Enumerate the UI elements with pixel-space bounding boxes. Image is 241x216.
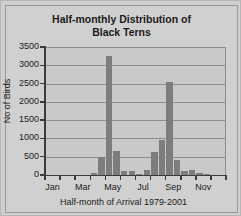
x-axis-tick bbox=[150, 176, 152, 180]
chart-title-line-1: Half-monthly Distribution of bbox=[29, 13, 214, 26]
x-axis-tick-label: Sep bbox=[156, 182, 190, 192]
x-axis-tick bbox=[195, 176, 197, 180]
image-frame: Half-monthly Distribution of Black Terns… bbox=[0, 0, 241, 216]
y-axis-tick-label: 2000 bbox=[9, 97, 39, 106]
y-axis-tick bbox=[40, 119, 45, 121]
y-axis-tick bbox=[40, 83, 45, 85]
y-axis-tick bbox=[40, 101, 45, 103]
bar bbox=[113, 151, 119, 175]
chart-title-line-2: Black Terns bbox=[29, 26, 214, 39]
y-axis-tick-label: 1000 bbox=[9, 133, 39, 142]
x-axis-tick-label: Mar bbox=[66, 182, 100, 192]
y-axis-tick-label: 3500 bbox=[9, 42, 39, 51]
bar bbox=[166, 82, 172, 175]
bar bbox=[98, 157, 104, 175]
x-axis-tick bbox=[120, 176, 122, 180]
x-axis-tick bbox=[210, 176, 212, 180]
x-axis-tick bbox=[74, 176, 76, 180]
x-axis-tick bbox=[90, 176, 92, 180]
x-axis-tick-label: May bbox=[96, 182, 130, 192]
x-axis-tick-label: Jan bbox=[36, 182, 70, 192]
x-axis-tick bbox=[44, 176, 46, 180]
x-axis-tick bbox=[105, 176, 107, 180]
y-axis-tick bbox=[40, 65, 45, 67]
x-axis-tick bbox=[135, 176, 137, 180]
y-axis-tick-label: 0 bbox=[9, 170, 39, 179]
bar bbox=[151, 152, 157, 175]
x-axis-tick bbox=[59, 176, 61, 180]
y-axis-tick bbox=[40, 138, 45, 140]
y-axis-tick bbox=[40, 46, 45, 48]
bar bbox=[159, 140, 165, 175]
x-axis-tick bbox=[180, 176, 182, 180]
y-axis-tick-label: 500 bbox=[9, 152, 39, 161]
y-axis-tick-label: 3000 bbox=[9, 60, 39, 69]
bar bbox=[174, 160, 180, 175]
bar-series bbox=[45, 47, 226, 175]
x-axis-tick bbox=[165, 176, 167, 180]
x-axis-tick-label: Jul bbox=[126, 182, 160, 192]
y-axis-tick-label: 1500 bbox=[9, 115, 39, 124]
chart-title: Half-monthly Distribution of Black Terns bbox=[29, 13, 214, 38]
x-axis-tick bbox=[225, 176, 227, 180]
x-axis-tick-label: Nov bbox=[186, 182, 220, 192]
y-axis-title: No of Birds bbox=[2, 71, 12, 131]
y-axis-tick bbox=[40, 156, 45, 158]
bar bbox=[106, 56, 112, 175]
x-axis-title: Half-month of Arrival 1979-2001 bbox=[21, 197, 226, 207]
y-axis-tick-label: 2500 bbox=[9, 79, 39, 88]
